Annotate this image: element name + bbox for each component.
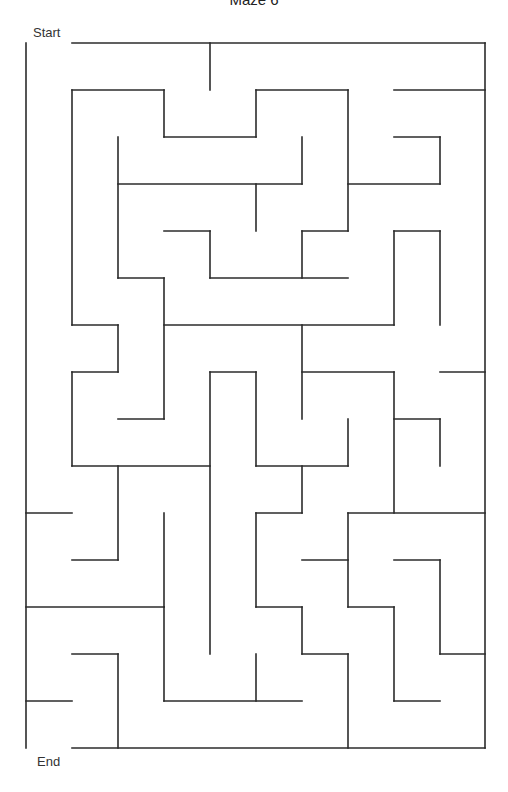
maze-grid <box>0 0 508 792</box>
